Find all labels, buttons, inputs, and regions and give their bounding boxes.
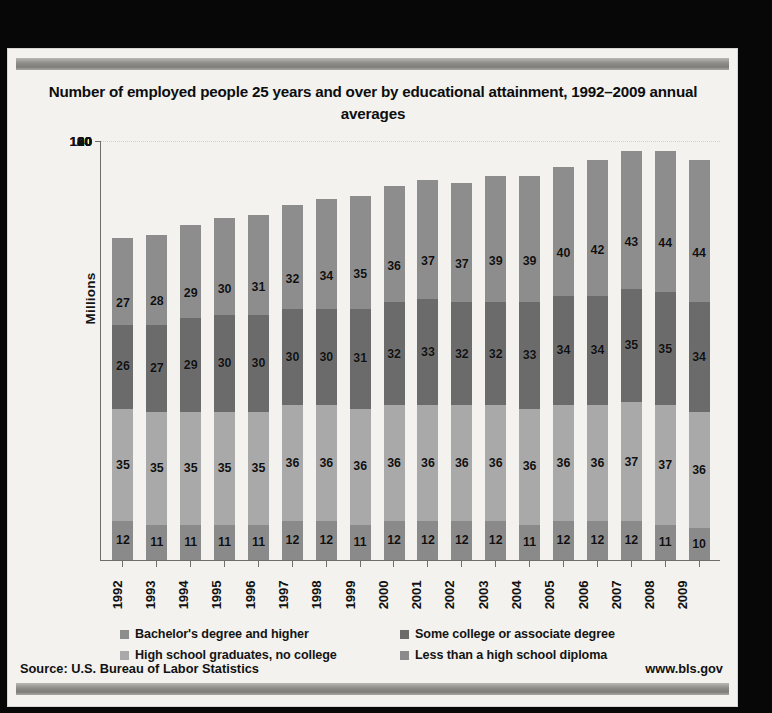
bar-column[interactable]: 29293511 — [174, 141, 208, 560]
bar-segment[interactable]: 36 — [451, 405, 472, 521]
bar-segment[interactable]: 32 — [384, 302, 405, 405]
bar-segment[interactable]: 27 — [146, 325, 167, 412]
legend-item[interactable]: Bachelor's degree and higher — [120, 627, 400, 641]
stacked-bar[interactable]: 36323612 — [384, 186, 405, 560]
legend-item[interactable]: High school graduates, no college — [120, 648, 400, 662]
bar-segment[interactable]: 35 — [248, 412, 269, 525]
stacked-bar[interactable]: 34303612 — [316, 199, 337, 560]
bar-column[interactable]: 42343612 — [580, 141, 614, 560]
bar-segment[interactable]: 37 — [451, 183, 472, 302]
bar-column[interactable]: 37323612 — [445, 141, 479, 560]
bar-segment[interactable]: 34 — [553, 296, 574, 406]
bar-segment[interactable]: 36 — [689, 412, 710, 528]
stacked-bar[interactable]: 37333612 — [417, 180, 438, 560]
stacked-bar[interactable]: 32303612 — [282, 205, 303, 560]
stacked-bar[interactable]: 28273511 — [146, 234, 167, 560]
bar-segment[interactable]: 30 — [248, 315, 269, 412]
bar-segment[interactable]: 29 — [180, 318, 201, 411]
stacked-bar[interactable]: 30303511 — [214, 218, 235, 560]
bar-segment[interactable]: 12 — [587, 521, 608, 560]
bar-segment[interactable]: 28 — [146, 235, 167, 325]
bar-segment[interactable]: 42 — [587, 160, 608, 295]
bar-segment[interactable]: 44 — [689, 160, 710, 302]
legend-item[interactable]: Less than a high school diploma — [400, 648, 660, 662]
bar-column[interactable]: 31303511 — [242, 141, 276, 560]
bar-segment[interactable]: 35 — [350, 196, 371, 309]
bar-column[interactable]: 43353712 — [614, 141, 648, 560]
bar-segment[interactable]: 12 — [621, 521, 642, 560]
stacked-bar[interactable]: 37323612 — [451, 183, 472, 560]
bar-segment[interactable]: 32 — [485, 302, 506, 405]
bar-segment[interactable]: 39 — [485, 176, 506, 302]
stacked-bar[interactable]: 35313611 — [350, 196, 371, 560]
bar-segment[interactable]: 30 — [214, 315, 235, 412]
bar-segment[interactable]: 11 — [519, 525, 540, 560]
bar-segment[interactable]: 35 — [621, 289, 642, 402]
bar-segment[interactable]: 12 — [451, 521, 472, 560]
stacked-bar[interactable]: 42343612 — [587, 160, 608, 560]
bar-segment[interactable]: 31 — [248, 215, 269, 315]
bar-segment[interactable]: 34 — [587, 296, 608, 406]
bar-segment[interactable]: 36 — [384, 186, 405, 302]
bar-segment[interactable]: 34 — [316, 199, 337, 309]
bar-segment[interactable]: 37 — [417, 180, 438, 299]
stacked-bar[interactable]: 40343612 — [553, 167, 574, 560]
stacked-bar[interactable]: 31303511 — [248, 215, 269, 560]
bar-segment[interactable]: 35 — [214, 412, 235, 525]
bar-column[interactable]: 39333611 — [513, 141, 547, 560]
stacked-bar[interactable]: 27263512 — [112, 238, 133, 560]
bar-segment[interactable]: 10 — [689, 528, 710, 560]
bar-segment[interactable]: 43 — [621, 151, 642, 290]
bar-segment[interactable]: 26 — [112, 325, 133, 409]
bar-segment[interactable]: 12 — [316, 521, 337, 560]
bar-segment[interactable]: 12 — [417, 521, 438, 560]
bar-segment[interactable]: 11 — [180, 525, 201, 560]
bar-segment[interactable]: 30 — [214, 218, 235, 315]
bar-segment[interactable]: 36 — [316, 405, 337, 521]
bar-column[interactable]: 34303612 — [309, 141, 343, 560]
bar-segment[interactable]: 11 — [248, 525, 269, 560]
bar-column[interactable]: 35313611 — [343, 141, 377, 560]
bar-segment[interactable]: 36 — [587, 405, 608, 521]
bar-segment[interactable]: 12 — [485, 521, 506, 560]
bar-segment[interactable]: 11 — [214, 525, 235, 560]
stacked-bar[interactable]: 29293511 — [180, 225, 201, 560]
bar-column[interactable]: 40343612 — [547, 141, 581, 560]
bar-segment[interactable]: 12 — [553, 521, 574, 560]
stacked-bar[interactable]: 44353711 — [655, 151, 676, 560]
stacked-bar[interactable]: 39323612 — [485, 176, 506, 560]
bar-segment[interactable]: 11 — [350, 525, 371, 560]
bar-segment[interactable]: 32 — [451, 302, 472, 405]
bar-segment[interactable]: 12 — [282, 521, 303, 560]
bar-segment[interactable]: 36 — [282, 405, 303, 521]
bar-column[interactable]: 37333612 — [411, 141, 445, 560]
bar-column[interactable]: 44343610 — [682, 141, 716, 560]
bar-column[interactable]: 27263512 — [106, 141, 140, 560]
bar-segment[interactable]: 36 — [384, 405, 405, 521]
bar-segment[interactable]: 40 — [553, 167, 574, 296]
bar-segment[interactable]: 36 — [553, 405, 574, 521]
bar-segment[interactable]: 27 — [112, 238, 133, 325]
website-link[interactable]: www.bls.gov — [645, 661, 723, 676]
bar-column[interactable]: 44353711 — [648, 141, 682, 560]
bar-segment[interactable]: 39 — [519, 176, 540, 302]
bar-segment[interactable]: 37 — [621, 402, 642, 521]
bar-segment[interactable]: 11 — [655, 525, 676, 560]
bar-segment[interactable]: 44 — [655, 151, 676, 293]
bar-segment[interactable]: 30 — [282, 309, 303, 406]
bar-segment[interactable]: 12 — [384, 521, 405, 560]
bar-segment[interactable]: 35 — [655, 292, 676, 405]
bar-segment[interactable]: 32 — [282, 205, 303, 308]
bar-column[interactable]: 32303612 — [275, 141, 309, 560]
bar-segment[interactable]: 36 — [350, 409, 371, 525]
bar-segment[interactable]: 36 — [519, 409, 540, 525]
bar-column[interactable]: 30303511 — [208, 141, 242, 560]
stacked-bar[interactable]: 43353712 — [621, 151, 642, 560]
bar-column[interactable]: 28273511 — [140, 141, 174, 560]
stacked-bar[interactable]: 39333611 — [519, 176, 540, 560]
bar-segment[interactable]: 29 — [180, 225, 201, 318]
bar-segment[interactable]: 30 — [316, 309, 337, 406]
bar-segment[interactable]: 35 — [112, 409, 133, 522]
bar-segment[interactable]: 12 — [112, 521, 133, 560]
bar-segment[interactable]: 31 — [350, 309, 371, 409]
